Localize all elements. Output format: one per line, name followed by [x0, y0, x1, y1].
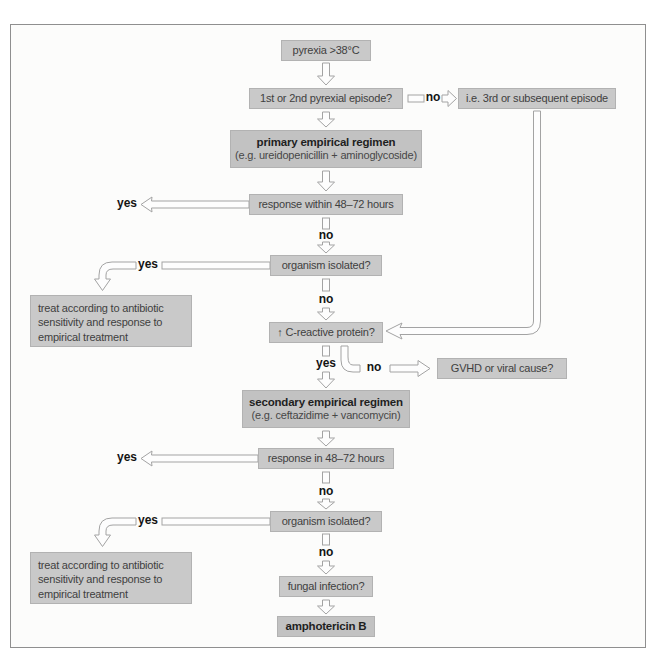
node-organism-2-text: organism isolated? [282, 515, 371, 528]
node-pyrexia: pyrexia >38°C [281, 40, 371, 61]
arrow-no-to-crp [318, 308, 335, 320]
node-response-2: response in 48–72 hours [258, 448, 394, 469]
arrow-pyrexia-to-episode [318, 63, 335, 85]
node-treat-2-line3: empirical treatment [38, 587, 128, 601]
arrow-response1-yes-left [141, 197, 249, 212]
node-secondary-regimen-subtitle: (e.g. ceftazidime + vancomycin) [252, 409, 401, 422]
node-amphotericin: amphotericin B [277, 616, 375, 637]
label-no-organism2: no [312, 546, 340, 559]
node-episode-question: 1st or 2nd pyrexial episode? [249, 88, 403, 109]
label-no-organism1: no [312, 293, 340, 306]
label-no-crp: no [362, 361, 386, 374]
node-response-1-text: response within 48–72 hours [258, 198, 393, 211]
shaft-response2-no [323, 472, 330, 483]
node-organism-1-text: organism isolated? [282, 259, 371, 272]
node-treat-2-line2: sensitivity and response to [38, 572, 162, 586]
node-crp: ↑ C-reactive protein? [269, 322, 383, 343]
node-fungal-text: fungal infection? [288, 580, 365, 593]
arrow-no-to-fungal [318, 561, 335, 574]
elbow-organism1-yes-down [95, 262, 137, 291]
node-organism-1: organism isolated? [270, 255, 382, 276]
node-primary-regimen-subtitle: (e.g. ureidopenicillin + aminoglycoside) [235, 149, 417, 162]
node-pyrexia-text: pyrexia >38°C [293, 44, 360, 57]
arrow-secondary-to-response2 [318, 431, 335, 446]
arrow-no-to-organism2 [318, 499, 335, 509]
label-yes-response2: yes [99, 451, 137, 464]
node-primary-regimen: primary empirical regimen (e.g. ureidope… [230, 130, 422, 168]
shaft-organism2-no [323, 534, 330, 545]
shaft-crp-yes [323, 346, 330, 356]
arrow-episode-to-primary [318, 112, 335, 127]
node-crp-text: ↑ C-reactive protein? [277, 326, 374, 339]
node-secondary-regimen: secondary empirical regimen (e.g. ceftaz… [242, 390, 410, 428]
node-response-2-text: response in 48–72 hours [268, 452, 385, 465]
node-treat-1-line1: treat according to antibiotic [38, 301, 164, 315]
shaft-organism1-no [323, 279, 330, 291]
node-treat-2: treat according to antibiotic sensitivit… [30, 552, 192, 604]
label-no-response2: no [312, 485, 340, 498]
label-no-episode: no [421, 91, 445, 104]
node-treat-2-line1: treat according to antibiotic [38, 558, 164, 572]
label-yes-organism2: yes [134, 514, 162, 527]
label-no-response1: no [312, 229, 340, 242]
node-fungal: fungal infection? [279, 576, 373, 597]
label-yes-response1: yes [99, 197, 137, 210]
shaft-organism2-yes [162, 518, 270, 525]
label-yes-organism1: yes [134, 258, 162, 271]
node-treat-1: treat according to antibiotic sensitivit… [30, 295, 192, 347]
node-episode-alternative-text: i.e. 3rd or subsequent episode [466, 92, 608, 105]
shaft-organism1-yes [162, 262, 270, 269]
node-amphotericin-text: amphotericin B [286, 620, 367, 634]
node-primary-regimen-title: primary empirical regimen [257, 136, 396, 150]
elbow-organism2-yes-down [95, 518, 137, 547]
arrow-yes-to-secondary [318, 372, 335, 388]
node-gvhd-text: GVHD or viral cause? [451, 362, 553, 375]
node-gvhd: GVHD or viral cause? [437, 358, 567, 379]
flowchart-canvas: pyrexia >38°C 1st or 2nd pyrexial episod… [0, 0, 658, 660]
arrow-primary-to-response1 [318, 171, 335, 191]
arrow-no-to-gvhd [390, 361, 430, 377]
node-treat-1-line3: empirical treatment [38, 330, 128, 344]
node-episode-question-text: 1st or 2nd pyrexial episode? [260, 92, 392, 105]
label-yes-crp: yes [312, 357, 340, 370]
node-episode-alternative: i.e. 3rd or subsequent episode [458, 88, 616, 109]
arrow-response2-yes-left [141, 451, 258, 466]
elbow-crp-no-right [341, 346, 360, 372]
arrow-fungal-to-amphotericin [318, 600, 335, 614]
node-secondary-regimen-title: secondary empirical regimen [249, 396, 403, 410]
node-organism-2: organism isolated? [270, 511, 382, 532]
node-treat-1-line2: sensitivity and response to [38, 315, 162, 329]
node-response-1: response within 48–72 hours [249, 194, 403, 215]
arrow-no-to-organism1 [318, 242, 335, 253]
